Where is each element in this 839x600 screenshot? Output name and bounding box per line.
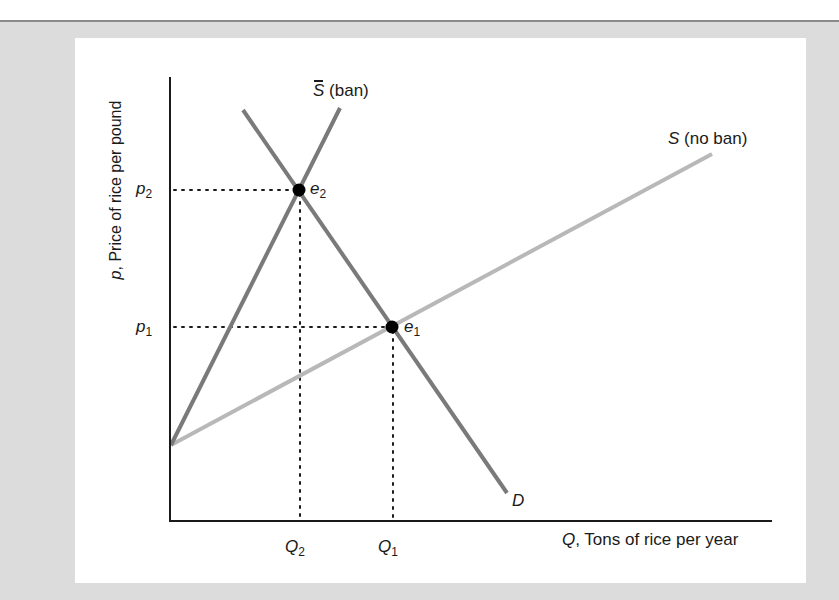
label-e2: e2 [310,180,326,200]
tick-q2: Q2 [285,538,305,558]
tick-q2-var: Q [285,537,298,556]
label-supply-ban: S (ban) [313,82,369,99]
label-supply-ban-var: S [313,82,324,99]
tick-p2-sub: 2 [145,187,152,201]
label-supply-no-ban: S (no ban) [668,130,747,147]
tick-q2-sub: 2 [298,545,305,559]
tick-p1-sub: 1 [145,325,152,339]
y-axis-text: , Price of rice per pound [107,101,124,271]
tick-q1-var: Q [378,537,391,556]
y-axis-label: p, Price of rice per pound [108,101,124,280]
guide-lines [174,190,393,518]
equilibrium-point-e1 [386,321,399,334]
label-supply-ban-text: (ban) [324,81,368,100]
label-e2-sub: 2 [319,187,326,201]
equilibrium-point-e2 [293,184,306,197]
label-demand: D [512,492,524,509]
tick-q1-sub: 1 [391,545,398,559]
label-supply-no-ban-var: S [668,129,679,148]
x-axis-label: Q, Tons of rice per year [562,531,738,548]
label-e1-sub: 1 [413,325,420,339]
label-demand-text: D [512,491,524,510]
tick-q1: Q1 [378,538,398,558]
supply-ban-curve [171,108,340,445]
label-supply-no-ban-text: (no ban) [679,129,747,148]
demand-curve [243,110,507,493]
label-e1: e1 [404,318,420,338]
tick-p2: p2 [136,180,152,200]
tick-p1: p1 [136,318,152,338]
x-axis-text: , Tons of rice per year [575,530,738,549]
y-axis-var: p [107,270,124,279]
x-axis-var: Q [562,530,575,549]
